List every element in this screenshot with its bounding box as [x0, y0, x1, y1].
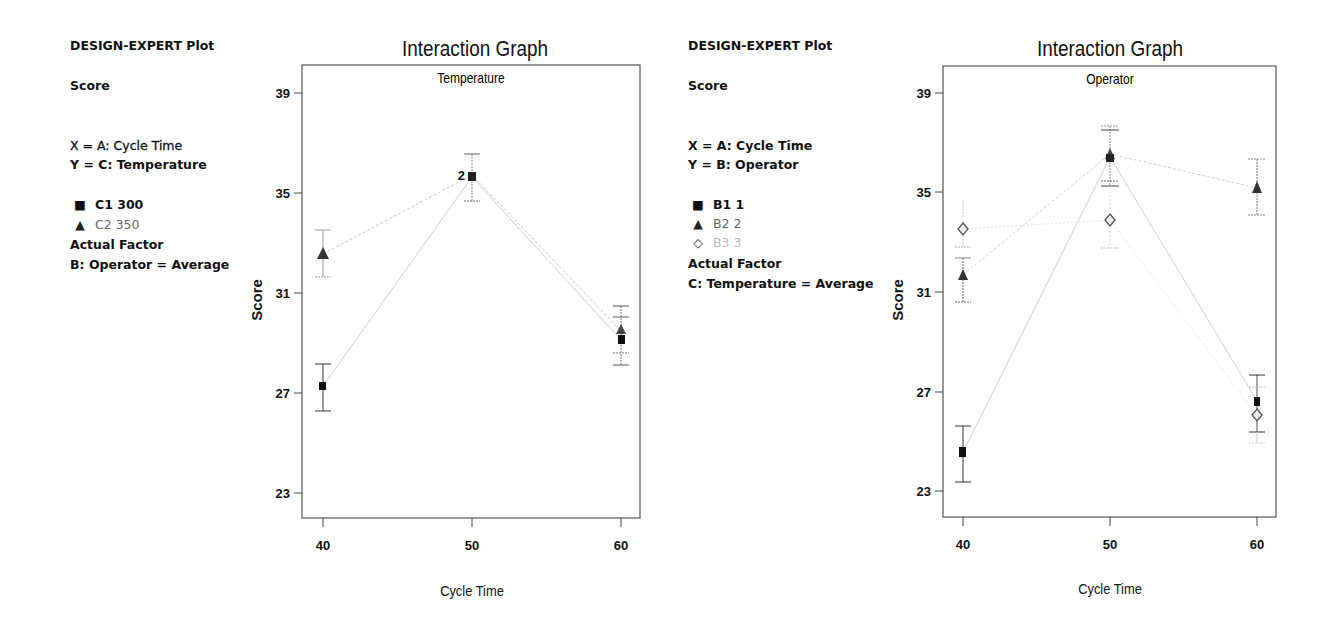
y-axis-label: Score — [248, 279, 265, 321]
markers — [317, 172, 626, 390]
series-line-b3 — [963, 220, 1257, 415]
svg-text:40: 40 — [316, 538, 330, 553]
markers — [958, 148, 1262, 457]
series-line-b1 — [963, 157, 1257, 452]
interaction-plot-temperature: Temperature 39 35 31 27 23 40 50 60 Cycl… — [0, 0, 660, 636]
series-line-c1 — [323, 177, 621, 386]
svg-text:35: 35 — [917, 185, 931, 200]
panel-operator: DESIGN-EXPERT Plot Score X = A: Cycle Ti… — [660, 0, 1330, 636]
plot-frame — [302, 65, 640, 518]
square-marker-icon — [468, 172, 476, 181]
x-axis: 40 50 60 — [956, 517, 1264, 552]
svg-text:23: 23 — [276, 486, 290, 501]
series-line-c2 — [323, 175, 621, 331]
panel-temperature: DESIGN-EXPERT Plot Score X = A: Cycle Ti… — [0, 0, 660, 636]
plot-subtitle: Operator — [1086, 71, 1134, 87]
svg-text:27: 27 — [917, 385, 931, 400]
svg-text:31: 31 — [917, 285, 931, 300]
overlap-annotation: 2 — [458, 168, 465, 183]
svg-text:50: 50 — [465, 538, 479, 553]
y-axis: 39 35 31 27 23 — [917, 86, 943, 499]
svg-text:60: 60 — [1250, 537, 1264, 552]
svg-text:40: 40 — [956, 537, 970, 552]
interaction-plot-operator: Operator 39 35 31 27 23 40 50 60 Cycle T… — [660, 0, 1330, 636]
plot-subtitle: Temperature — [437, 70, 505, 86]
x-axis-label: Cycle Time — [1078, 580, 1142, 597]
triangle-marker-icon — [317, 247, 329, 259]
svg-text:50: 50 — [1103, 537, 1117, 552]
square-marker-icon — [319, 382, 326, 390]
triangle-marker-icon — [616, 324, 626, 334]
error-bars — [315, 154, 629, 411]
svg-text:23: 23 — [917, 484, 931, 499]
square-marker-icon — [1254, 397, 1260, 406]
x-axis: 40 50 60 — [316, 518, 628, 553]
svg-text:31: 31 — [276, 286, 290, 301]
triangle-marker-icon — [958, 269, 968, 280]
x-axis-label: Cycle Time — [440, 582, 504, 599]
diamond-marker-icon — [958, 223, 968, 235]
square-marker-icon — [959, 447, 966, 457]
square-marker-icon — [1106, 154, 1114, 162]
diamond-marker-icon — [1252, 409, 1262, 421]
svg-text:39: 39 — [276, 86, 290, 101]
svg-text:35: 35 — [276, 186, 290, 201]
square-marker-icon — [618, 335, 625, 344]
svg-text:27: 27 — [276, 386, 290, 401]
y-axis-label: Score — [889, 279, 906, 321]
svg-text:60: 60 — [614, 538, 628, 553]
svg-text:39: 39 — [917, 86, 931, 101]
y-axis: 39 35 31 27 23 — [276, 86, 302, 501]
